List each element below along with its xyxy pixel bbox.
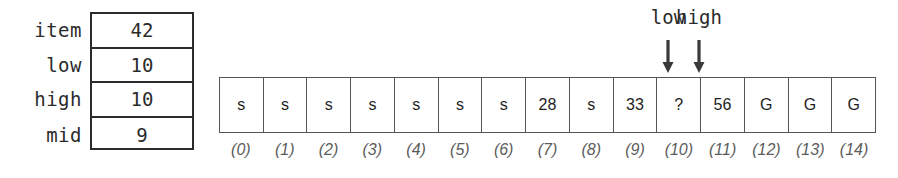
array-index-label: (8)	[569, 137, 613, 163]
array-cell-value: G	[760, 96, 772, 114]
array-cell: 56	[701, 78, 745, 132]
array-cell-value: 56	[714, 96, 732, 114]
array-diagram: s s s s s s s 28 s 33 ? 56 G G G	[219, 77, 876, 133]
table-row: high 10	[92, 83, 192, 118]
variable-name-item: item	[34, 19, 82, 41]
table-row: mid 9	[92, 118, 192, 153]
array-cell: 33	[614, 78, 658, 132]
variable-value-high: 10	[92, 88, 192, 110]
pointer-label-high: high	[676, 6, 722, 28]
array-cell: s	[220, 78, 264, 132]
array-cell: G	[789, 78, 833, 132]
array-index-label: (1)	[263, 137, 307, 163]
array-cell: G	[832, 78, 875, 132]
array-cell: s	[351, 78, 395, 132]
variable-table: item 42 low 10 high 10 mid 9	[90, 12, 194, 150]
array-cell-value: 28	[539, 96, 557, 114]
array-index-label: (12)	[745, 137, 789, 163]
array-cell-value: G	[847, 96, 859, 114]
array-cell: s	[439, 78, 483, 132]
array-cell: s	[570, 78, 614, 132]
array-cell: 28	[526, 78, 570, 132]
variable-name-low: low	[46, 54, 82, 76]
variable-name-high: high	[34, 88, 82, 110]
table-row: low 10	[92, 49, 192, 84]
array-cell: s	[307, 78, 351, 132]
array-cell: G	[745, 78, 789, 132]
array-cell: s	[395, 78, 439, 132]
array-cell-value: s	[456, 96, 464, 114]
variable-value-low: 10	[92, 54, 192, 76]
array-cell: ?	[657, 78, 701, 132]
array-index-label: (10)	[657, 137, 701, 163]
variable-name-mid: mid	[46, 124, 82, 146]
array-index-label: (0)	[219, 137, 263, 163]
array-cell-value: ?	[674, 96, 683, 114]
array-index-label: (11)	[701, 137, 745, 163]
down-arrow-icon	[661, 40, 675, 74]
array-index-label: (5)	[438, 137, 482, 163]
array-index-row: (0) (1) (2) (3) (4) (5) (6) (7) (8) (9) …	[219, 137, 876, 163]
array-cell-value: s	[500, 96, 508, 114]
array-cell-value: s	[369, 96, 377, 114]
array-cell-value: G	[804, 96, 816, 114]
array-index-label: (3)	[350, 137, 394, 163]
array-index-label: (13)	[788, 137, 832, 163]
array-index-label: (9)	[613, 137, 657, 163]
array-cell: s	[482, 78, 526, 132]
down-arrow-icon	[692, 40, 706, 74]
array-index-label: (6)	[482, 137, 526, 163]
array-cell-value: s	[587, 96, 595, 114]
array-cell-value: s	[325, 96, 333, 114]
array-index-label: (14)	[832, 137, 876, 163]
table-row: item 42	[92, 14, 192, 49]
array-index-label: (4)	[394, 137, 438, 163]
variable-value-mid: 9	[92, 124, 192, 146]
array-cell-value: s	[412, 96, 420, 114]
array-cell-value: s	[281, 96, 289, 114]
array-cell-value: 33	[626, 96, 644, 114]
array-cell-value: s	[237, 96, 245, 114]
variable-value-item: 42	[92, 19, 192, 41]
array-index-label: (2)	[307, 137, 351, 163]
array-cell: s	[264, 78, 308, 132]
array-index-label: (7)	[526, 137, 570, 163]
